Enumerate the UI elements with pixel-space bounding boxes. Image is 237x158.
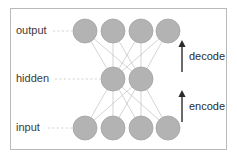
flow-label-decode: decode [189,50,225,62]
layer-label-input: input [16,121,40,133]
node-hidden-1 [101,67,125,91]
node-input-4 [156,116,180,140]
node-input-2 [101,116,125,140]
node-input-3 [129,116,153,140]
node-hidden-2 [129,67,153,91]
node-output-1 [73,19,97,43]
node-output-2 [101,19,125,43]
layer-label-hidden: hidden [16,72,49,84]
autoencoder-diagram: outputhiddeninput decodeencode [0,0,237,158]
node-output-3 [129,19,153,43]
node-output-4 [156,19,180,43]
layer-label-output: output [16,24,47,36]
diagram-canvas: outputhiddeninput decodeencode [0,0,237,158]
node-input-1 [73,116,97,140]
flow-label-encode: encode [189,100,225,112]
